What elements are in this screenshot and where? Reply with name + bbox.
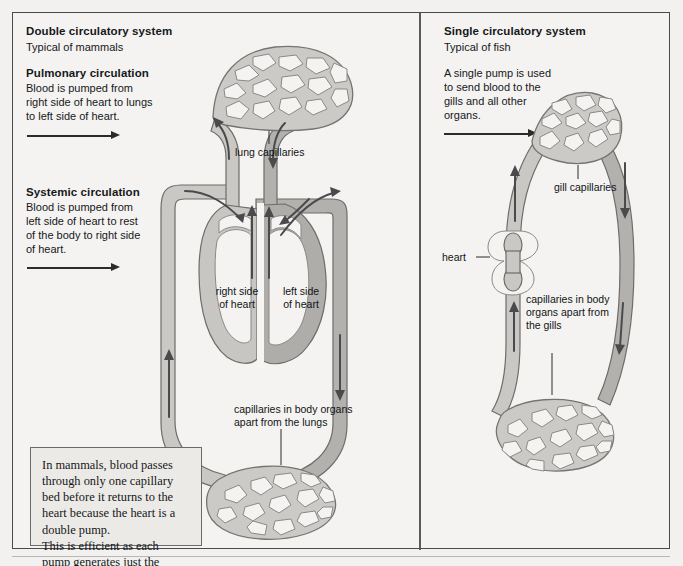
fish-heart-shape <box>488 231 538 295</box>
note-box-mammals: In mammals, blood passes through only on… <box>30 447 202 546</box>
page-background: Double circulatory system Typical of mam… <box>0 0 683 566</box>
label-body-capillaries-lungs: capillaries in body organs apart from th… <box>234 403 352 429</box>
label-fish-body-capillaries: capillaries in body organs apart from th… <box>526 293 609 331</box>
figure-frame: Double circulatory system Typical of mam… <box>12 12 670 549</box>
right-panel-single-circulatory: Single circulatory system Typical of fis… <box>420 13 671 550</box>
single-circulation-diagram <box>420 13 671 550</box>
label-right-side-of-heart: right side of heart <box>206 285 268 311</box>
label-heart: heart <box>442 251 466 264</box>
label-gill-capillaries: gill capillaries <box>554 181 616 194</box>
bottom-rule <box>12 556 670 557</box>
label-left-side-of-heart: left side of heart <box>270 285 332 311</box>
left-panel-double-circulatory: Double circulatory system Typical of mam… <box>13 13 419 550</box>
label-lung-capillaries: lung capillaries <box>235 146 304 159</box>
